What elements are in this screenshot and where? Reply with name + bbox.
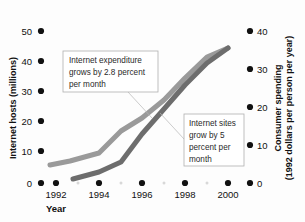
left-axis-title: Internet hosts (millions) (8, 57, 18, 159)
left-tick-dot-0 (38, 180, 44, 186)
left-tick-dot-50 (38, 28, 44, 34)
annotation-expenditure-line-1: Internet expenditure (69, 56, 142, 65)
leader-line-sites-note (160, 113, 184, 139)
x-minor-dot-1997 (163, 182, 166, 185)
annotation-sites-line-3: percent per (189, 143, 231, 152)
line-chart: Internet hosts (millions) 50 40 30 20 10… (0, 0, 305, 222)
x-tick-dot-2000 (225, 180, 231, 186)
x-minor-dot-1993 (77, 182, 80, 185)
right-tick-dot-10 (247, 142, 253, 148)
right-tick-label-20: 20 (257, 102, 268, 113)
x-tick-dot-1994 (96, 180, 102, 186)
x-tick-label-1996: 1996 (131, 189, 152, 200)
left-tick-label-0: 0 (27, 178, 32, 189)
annotation-sites-line-2: grow by 5 (189, 131, 225, 140)
left-tick-label-10: 10 (21, 146, 32, 157)
x-minor-dot-1999 (206, 182, 209, 185)
left-tick-dot-30 (38, 88, 44, 94)
x-tick-dot-1992 (53, 180, 59, 186)
right-tick-dot-40 (247, 28, 253, 34)
x-tick-label-1994: 1994 (88, 189, 109, 200)
left-tick-dot-20 (38, 118, 44, 124)
right-tick-dot-0 (247, 180, 253, 186)
x-tick-dot-1998 (182, 180, 188, 186)
right-tick-label-30: 30 (257, 64, 268, 75)
annotation-expenditure-line-2: grows by 2.8 percent (69, 68, 146, 77)
x-tick-label-1992: 1992 (45, 189, 66, 200)
right-axis-title-line2: (1992 dollars per person per year) (284, 36, 294, 181)
right-tick-label-40: 40 (257, 26, 268, 37)
right-axis-title-line1: Consumer spending (273, 64, 283, 151)
x-tick-dot-1996 (139, 180, 145, 186)
annotation-expenditure-line-3: per month (69, 80, 106, 89)
left-tick-dot-40 (38, 58, 44, 64)
chart-container: Internet hosts (millions) 50 40 30 20 10… (0, 0, 305, 222)
right-tick-dot-30 (247, 66, 253, 72)
x-minor-dot-1995 (120, 182, 123, 185)
leader-line-expenditure-note (128, 92, 152, 118)
left-tick-label-30: 30 (21, 86, 32, 97)
annotation-sites-line-1: Internet sites (189, 119, 236, 128)
x-tick-label-2000: 2000 (217, 189, 238, 200)
left-tick-label-20: 20 (21, 116, 32, 127)
left-tick-dot-10 (38, 148, 44, 154)
left-tick-label-50: 50 (21, 26, 32, 37)
x-axis-title: Year (46, 203, 66, 214)
left-tick-label-40: 40 (21, 56, 32, 67)
x-tick-label-1998: 1998 (174, 189, 195, 200)
right-tick-label-0: 0 (257, 178, 262, 189)
right-tick-label-10: 10 (257, 140, 268, 151)
right-tick-dot-20 (247, 104, 253, 110)
annotation-sites-line-4: month (189, 155, 212, 164)
